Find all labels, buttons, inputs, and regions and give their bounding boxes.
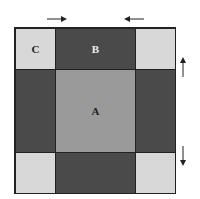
cell-bottom-left — [15, 152, 56, 194]
up-arrow-icon — [179, 56, 187, 78]
cell-bottom-right — [135, 152, 176, 194]
grid-diagram: C B A — [14, 27, 176, 194]
cell-b: B — [55, 28, 136, 70]
right-arrow-icon — [46, 15, 68, 23]
cell-middle-left — [15, 69, 56, 153]
down-arrow-icon — [179, 145, 187, 167]
cell-bottom-middle — [55, 152, 136, 194]
left-arrow-icon — [123, 15, 145, 23]
label-c: C — [32, 43, 40, 55]
label-a: A — [92, 105, 100, 117]
cell-top-right — [135, 28, 176, 70]
cell-c: C — [15, 28, 56, 70]
label-b: B — [92, 43, 99, 55]
cell-a: A — [55, 69, 136, 153]
cell-middle-right — [135, 69, 176, 153]
